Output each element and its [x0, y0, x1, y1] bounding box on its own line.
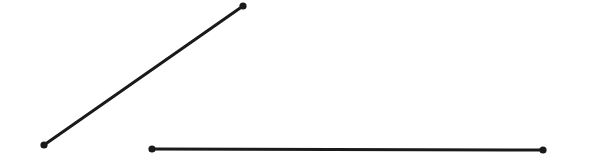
horizontal-segment-start-dot	[148, 145, 155, 152]
horizontal-segment-end-dot	[539, 146, 546, 153]
diagonal-segment-end-dot	[239, 2, 246, 9]
figure-canvas	[0, 0, 589, 165]
line-segments-figure	[0, 0, 589, 165]
diagonal-segment-line	[44, 6, 243, 145]
diagonal-segment-group	[40, 2, 246, 148]
horizontal-segment-group	[148, 145, 546, 153]
diagonal-segment-start-dot	[40, 141, 47, 148]
horizontal-segment-line	[152, 149, 543, 150]
